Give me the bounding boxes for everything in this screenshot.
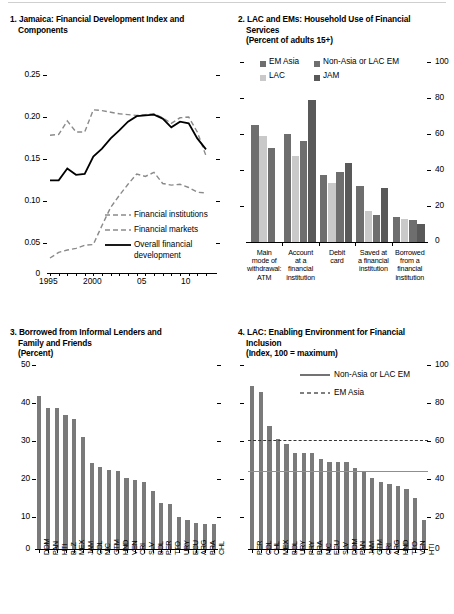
panel-2-bar xyxy=(268,148,276,242)
figure-root: 1. Jamaica: Financial Development Index … xyxy=(0,0,454,614)
panel-4-country-label: MEX xyxy=(281,540,290,555)
panel-2-group-tick xyxy=(319,242,320,246)
panel-3-title: 3. Borrowed from Informal Lenders and Fa… xyxy=(10,327,225,359)
panel-3-bar xyxy=(90,463,94,549)
panel-2-bars xyxy=(246,56,428,242)
panel-4-ytick-60: 60 xyxy=(435,435,444,445)
panel-3-number: 3. xyxy=(10,327,17,337)
panel-4-ytick-80: 80 xyxy=(435,397,444,407)
panel-4-bar xyxy=(370,478,374,549)
panel-4-bar xyxy=(267,426,271,549)
panel-3-ytick-40: 40 xyxy=(8,397,30,407)
panel-4-bar xyxy=(344,462,348,549)
panel-3-bar xyxy=(142,482,146,549)
panel-2-ytick-dash-l-80 xyxy=(240,98,244,99)
panel-3-country-label: ARG xyxy=(199,540,208,555)
panel-2-bar xyxy=(292,156,300,242)
panel-4-title-line2: Inclusion xyxy=(238,338,454,349)
panel-4-bar xyxy=(353,468,357,549)
panel-2-category-label: Borrowedfrom afinancialinstitution xyxy=(389,249,431,282)
panel-3-bars xyxy=(35,359,218,549)
panel-3-title-line2: Family and Friends xyxy=(10,338,225,349)
panel-3-ytick-0: 0 xyxy=(8,543,30,553)
panel-3-country-label: JAM xyxy=(86,541,95,555)
panel-4-xtick xyxy=(252,549,253,553)
panel-4-bar xyxy=(250,386,254,549)
panel-1-xtick xyxy=(128,273,129,276)
panel-1-xtick xyxy=(67,273,68,276)
panel-4-country-label: PER xyxy=(255,541,264,555)
panel-3-country-label: MEX xyxy=(77,540,86,555)
panel-4-title-line1: LAC: Enabling Environment for Financial xyxy=(247,327,405,337)
panel-2-ytick-100: 100 xyxy=(435,56,448,66)
panel-2-ytick-40: 40 xyxy=(435,164,444,174)
panel-4-ytick-20: 20 xyxy=(435,511,444,521)
panel-4-bar xyxy=(362,471,366,549)
panel-2-number: 2. xyxy=(238,14,245,24)
panel-2-ytick-80: 80 xyxy=(435,92,444,102)
panel-1-number: 1. xyxy=(10,14,17,24)
panel-4-country-label: GTM xyxy=(375,539,384,555)
panel-3-bar xyxy=(55,408,59,549)
panel-4-country-label: VEN xyxy=(418,541,427,555)
panel-3-subtitle: (Percent) xyxy=(10,348,225,359)
panel-3-bar xyxy=(81,437,85,549)
panel-3-country-label: TTO xyxy=(173,541,182,555)
panel-3-bar xyxy=(124,478,128,549)
panel-1: 1. Jamaica: Financial Development Index … xyxy=(10,14,225,304)
panel-3-country-label: CHL xyxy=(217,541,226,555)
panel-2-bar xyxy=(365,211,373,242)
panel-3-country-label: CRI xyxy=(138,543,147,555)
panel-4-ytick-40: 40 xyxy=(435,473,444,483)
panel-2-title: 2. LAC and EMs: Household Use of Financi… xyxy=(238,14,454,46)
panel-4-bar xyxy=(284,444,288,549)
panel-3-ytick-30: 30 xyxy=(8,435,30,445)
panel-4-ytick-dash-l-40 xyxy=(240,479,244,480)
panel-3-country-label: BRA xyxy=(208,541,217,555)
panel-3-ytick-10: 10 xyxy=(8,511,30,521)
panel-1-xtick xyxy=(119,273,120,276)
panel-2-bar xyxy=(328,183,336,242)
panel-3-bar xyxy=(107,470,111,549)
panel-4-reference-line-non-asia xyxy=(248,471,428,472)
panel-2-ytick-20: 20 xyxy=(435,200,444,210)
panel-3-country-label: SLV xyxy=(147,542,156,555)
panel-4-ytick-dash-l-80 xyxy=(240,403,244,404)
panel-4-bar xyxy=(336,462,340,549)
panel-1-xtick xyxy=(102,273,103,276)
panel-4-country-label: SLV xyxy=(341,542,350,555)
panel-1-title-line2: Components xyxy=(10,25,225,36)
panel-2-ytick-60: 60 xyxy=(435,128,444,138)
panel-2: 2. LAC and EMs: Household Use of Financi… xyxy=(238,14,454,319)
panel-1-xtick xyxy=(59,273,60,276)
panel-2-title-line1: LAC and EMs: Household Use of Financial xyxy=(247,14,410,24)
panel-1-xtick xyxy=(111,273,112,276)
panel-3: 3. Borrowed from Informal Lenders and Fa… xyxy=(10,327,225,614)
panel-1-title-line1: Jamaica: Financial Development Index and xyxy=(19,14,184,24)
panel-4-title: 4. LAC: Enabling Environment for Financi… xyxy=(238,327,454,359)
panel-4-plot: Non-Asia or LAC EM EM Asia 100 80 60 40 … xyxy=(238,359,454,609)
panel-2-ytick-dash-l-100 xyxy=(240,62,244,63)
panel-2-bar xyxy=(381,188,389,242)
panel-2-title-line2: Services xyxy=(238,25,454,36)
panel-2-subtitle: (Percent of adults 15+) xyxy=(238,35,454,46)
panel-3-bar xyxy=(151,491,155,549)
panel-4-ytick-dash-l-20 xyxy=(240,517,244,518)
panel-1-xlabel-3: 10 xyxy=(181,276,190,286)
panel-1-legend-financial-institutions: Financial institutions xyxy=(134,210,208,219)
panel-1-legend-overall: Overall financial development xyxy=(134,240,204,261)
panel-3-bar xyxy=(46,408,50,549)
panel-2-group-tick xyxy=(282,242,283,246)
panel-3-country-label: HTI xyxy=(60,544,69,555)
panel-2-bar xyxy=(251,125,259,242)
panel-2-bar xyxy=(345,163,353,242)
panel-3-country-label: HND xyxy=(121,540,130,555)
panel-4-subtitle: (Index, 100 = maximum) xyxy=(238,348,454,359)
panel-1-xtick xyxy=(163,273,164,276)
panel-4-country-label: HND xyxy=(401,540,410,555)
panel-1-xtick xyxy=(154,273,155,276)
panel-2-bar xyxy=(259,136,267,242)
panel-1-xlabel-2: 05 xyxy=(137,276,146,286)
panel-4-ytick-dash-l-100 xyxy=(240,365,244,366)
panel-1-xtick xyxy=(206,273,207,276)
